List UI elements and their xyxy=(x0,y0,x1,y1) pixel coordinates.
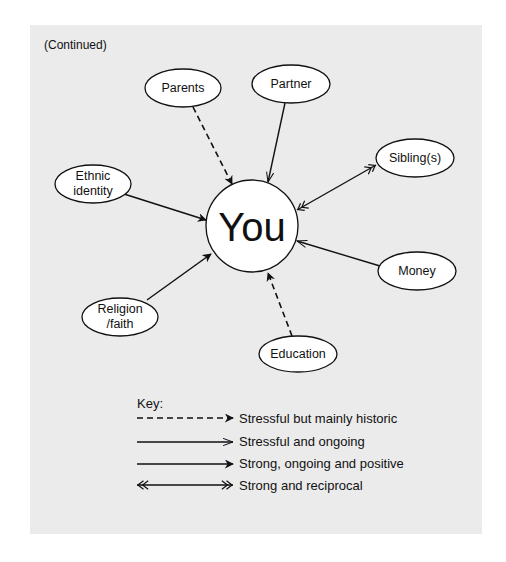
connector-money xyxy=(297,241,380,266)
center-label-you: You xyxy=(218,205,286,250)
label-partner: Partner xyxy=(271,77,312,92)
label-religion-faith-line2: /faith xyxy=(97,317,142,332)
key-title: Key: xyxy=(137,396,163,411)
label-money: Money xyxy=(398,264,436,279)
label-siblings: Sibling(s) xyxy=(389,151,441,166)
label-education: Education xyxy=(270,347,326,362)
key-label-strong-positive: Strong, ongoing and positive xyxy=(239,456,404,471)
label-ethnic-identity-line1: Ethnic xyxy=(73,169,113,184)
key-label-stressful-ongoing: Stressful and ongoing xyxy=(239,434,365,449)
connector-siblings xyxy=(297,165,376,210)
connector-religion-faith xyxy=(147,254,211,300)
label-religion-faith-line1: Religion xyxy=(97,302,142,317)
key-label-stressful-historic: Stressful but mainly historic xyxy=(239,411,397,426)
connector-partner xyxy=(268,103,285,182)
connector-ethnic-identity xyxy=(124,194,206,220)
label-ethnic-identity-line2: identity xyxy=(73,184,113,199)
key-label-strong-reciprocal: Strong and reciprocal xyxy=(239,478,363,493)
connector-parents xyxy=(193,107,232,184)
label-parents: Parents xyxy=(161,81,204,96)
label-ethnic-identity: Ethnic identity xyxy=(73,169,113,199)
connector-education xyxy=(268,273,292,336)
label-religion-faith: Religion /faith xyxy=(97,302,142,332)
